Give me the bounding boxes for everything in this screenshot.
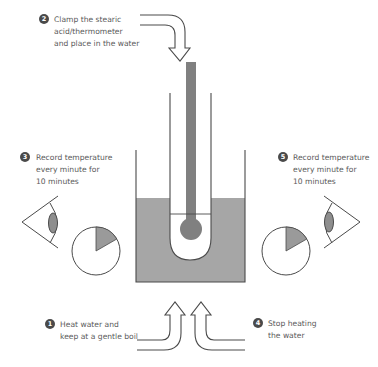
step-text: 10 minutes bbox=[36, 177, 79, 186]
step-text: Heat water and bbox=[60, 320, 119, 329]
step-number: 2 bbox=[42, 15, 47, 23]
step-number: 5 bbox=[281, 153, 286, 161]
step-text: 10 minutes bbox=[293, 177, 336, 186]
thermometer-bulb bbox=[180, 218, 202, 240]
stop-heat-arrow bbox=[191, 302, 245, 350]
clock-icon bbox=[72, 227, 120, 275]
step-4-label: 4 Stop heating the water bbox=[253, 318, 317, 340]
step-number: 1 bbox=[48, 320, 53, 328]
eye-icon bbox=[22, 196, 58, 248]
step-number: 3 bbox=[23, 153, 28, 161]
clamp-arrow bbox=[140, 15, 190, 61]
step-text: every minute for bbox=[293, 165, 357, 174]
step-text: the water bbox=[268, 331, 305, 340]
step-text: Record temperature bbox=[36, 153, 113, 162]
step-text: and place in the water bbox=[54, 39, 140, 48]
eye-icon bbox=[324, 196, 360, 248]
step-text: Record temperature bbox=[293, 153, 370, 162]
experiment-diagram: 2 Clamp the stearic acid/thermometer and… bbox=[0, 0, 378, 367]
step-number: 4 bbox=[256, 319, 261, 327]
clock-icon bbox=[262, 227, 310, 275]
step-text: acid/thermometer bbox=[54, 27, 124, 36]
step-text: Stop heating bbox=[268, 319, 317, 328]
thermometer-stem-inner bbox=[186, 93, 196, 230]
step-2-label: 2 Clamp the stearic acid/thermometer and… bbox=[39, 14, 140, 48]
step-1-label: 1 Heat water and keep at a gentle boil bbox=[45, 319, 138, 341]
step-text: Clamp the stearic bbox=[54, 15, 121, 24]
step-text: every minute for bbox=[36, 165, 100, 174]
step-3-label: 3 Record temperature every minute for 10… bbox=[20, 152, 113, 186]
step-5-label: 5 Record temperature every minute for 10… bbox=[278, 152, 370, 186]
heat-arrow bbox=[137, 302, 185, 350]
step-text: keep at a gentle boil bbox=[60, 332, 138, 341]
